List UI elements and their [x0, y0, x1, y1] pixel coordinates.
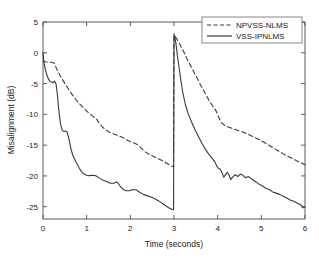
legend-label-vss-ipnlms: VSS-IPNLMS [236, 32, 284, 41]
x-tick-label: 6 [303, 224, 308, 233]
y-tick-label: 5 [34, 18, 39, 27]
x-tick-label: 1 [84, 224, 89, 233]
y-tick-label: -25 [26, 203, 38, 212]
figure-container: 50-5-10-15-20-25 0123456 Time (seconds) … [0, 0, 319, 259]
y-tick-label: -20 [26, 172, 38, 181]
x-tick-label: 3 [172, 224, 177, 233]
y-axis-title: Misalignment (dB) [6, 86, 16, 155]
y-tick-label: -15 [26, 141, 38, 150]
x-tick-label: 4 [215, 224, 220, 233]
misalignment-line-chart: 50-5-10-15-20-25 0123456 Time (seconds) … [0, 0, 319, 259]
x-tick-label: 5 [259, 224, 264, 233]
y-tick-label: -10 [26, 110, 38, 119]
legend-label-npvss-nlms: NPVSS-NLMS [236, 21, 288, 30]
x-tick-label: 2 [128, 224, 133, 233]
x-tick-label: 0 [41, 224, 46, 233]
y-tick-label: 0 [34, 49, 39, 58]
legend: NPVSS-NLMS VSS-IPNLMS [202, 17, 302, 43]
y-tick-label: -5 [31, 80, 39, 89]
x-axis-title: Time (seconds) [145, 239, 203, 249]
